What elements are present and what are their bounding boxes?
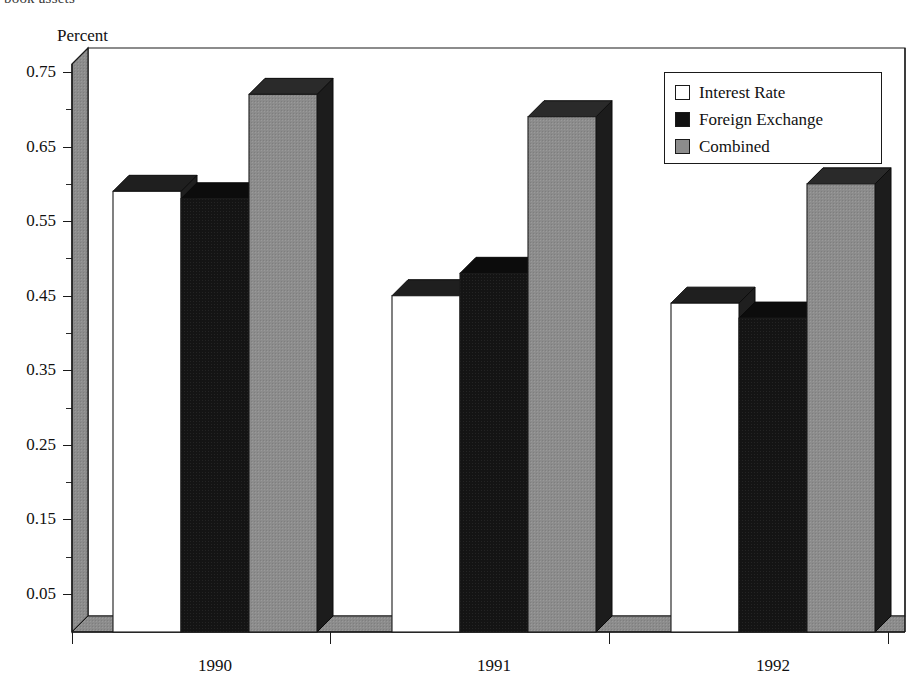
x-tick-mark	[888, 632, 889, 644]
chart-legend: Interest Rate Foreign Exchange Combined	[664, 72, 882, 164]
bar-1990-combined	[249, 78, 333, 632]
x-tick-mark	[72, 632, 73, 644]
x-tick-label-1990: 1990	[175, 656, 255, 676]
x-tick-label-1991: 1991	[454, 656, 534, 676]
figure-container: book assets Percent 0.750.650.550.450.35…	[0, 0, 924, 690]
legend-label-interest-rate: Interest Rate	[699, 83, 785, 103]
legend-item-combined[interactable]: Combined	[675, 133, 881, 160]
legend-item-interest-rate[interactable]: Interest Rate	[675, 79, 881, 106]
x-tick-mark	[609, 632, 610, 644]
legend-item-foreign-exchange[interactable]: Foreign Exchange	[675, 106, 881, 133]
x-tick-label-1992: 1992	[733, 656, 813, 676]
bar-1992-combined	[807, 168, 891, 632]
legend-label-foreign-exchange: Foreign Exchange	[699, 110, 823, 130]
legend-label-combined: Combined	[699, 137, 770, 157]
bar-1991-combined	[528, 101, 612, 632]
x-tick-mark	[330, 632, 331, 644]
legend-swatch-interest-rate	[675, 85, 690, 100]
legend-swatch-combined	[675, 139, 690, 154]
legend-swatch-foreign-exchange	[675, 112, 690, 127]
